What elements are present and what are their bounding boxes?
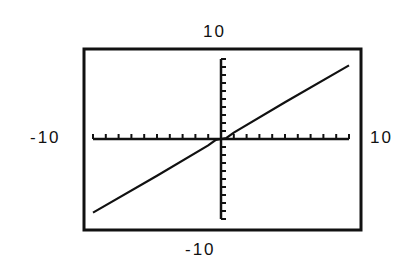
graph-window xyxy=(0,0,417,273)
